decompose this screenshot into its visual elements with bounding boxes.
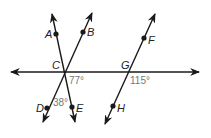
point-E [69, 104, 74, 109]
point-A [53, 31, 58, 36]
label-B: B [87, 26, 94, 38]
point-D [44, 105, 49, 110]
angle-label-115: 115° [130, 75, 150, 86]
angle-label-38: 38° [53, 97, 68, 108]
point-F [141, 35, 146, 40]
label-A: A [44, 28, 52, 40]
angle-label-77: 77° [69, 75, 84, 86]
point-B [80, 29, 85, 34]
label-C: C [52, 59, 60, 71]
label-D: D [36, 102, 44, 114]
label-F: F [148, 34, 156, 46]
label-H: H [117, 102, 125, 114]
label-E: E [76, 102, 84, 114]
label-G: G [121, 59, 130, 71]
geometry-diagram: A B C D E F G H 77° 38° 115° [0, 0, 211, 138]
point-H [110, 103, 115, 108]
